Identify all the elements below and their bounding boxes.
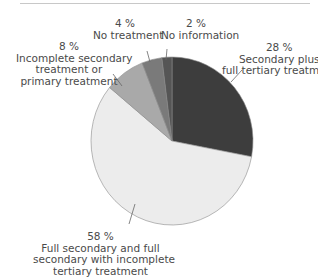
label-secondary-plus-full-tertiary: 28 % Secondary plus full tertiary treatm… [222, 42, 318, 77]
label-full-secondary: 58 % Full secondary and full secondary w… [33, 231, 168, 277]
label-no-information: 2 % No information [161, 18, 231, 41]
label-no-treatment: 4 % No treatment [93, 18, 157, 41]
label-incomplete-secondary: 8 % Incomplete secondary treatment or pr… [16, 41, 122, 87]
